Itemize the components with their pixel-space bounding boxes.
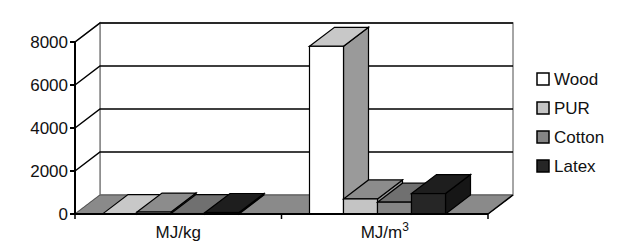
y-tick-label: 2000	[30, 162, 68, 181]
x-category-label: MJ/m3	[361, 220, 410, 242]
legend-label: PUR	[554, 99, 590, 118]
legend-swatch	[537, 160, 549, 172]
y-tick-label: 8000	[30, 33, 68, 52]
bar-chart-3d: 02000400060008000 MJ/kgMJ/m3 WoodPURCott…	[0, 0, 640, 249]
legend-swatch	[537, 102, 549, 114]
legend-item-latex: Latex	[537, 157, 596, 176]
x-category-label: MJ/kg	[156, 223, 201, 242]
legend-swatch	[537, 73, 549, 85]
legend-label: Wood	[554, 70, 598, 89]
y-tick-label: 4000	[30, 119, 68, 138]
legend-item-cotton: Cotton	[537, 128, 604, 147]
legend-label: Latex	[554, 157, 596, 176]
legend-swatch	[537, 131, 549, 143]
y-tick-label: 6000	[30, 76, 68, 95]
y-tick-label: 0	[59, 205, 68, 224]
legend-item-wood: Wood	[537, 70, 598, 89]
y-axis: 02000400060008000	[30, 33, 75, 224]
legend-item-pur: PUR	[537, 99, 590, 118]
legend-label: Cotton	[554, 128, 604, 147]
legend: WoodPURCottonLatex	[537, 70, 604, 176]
